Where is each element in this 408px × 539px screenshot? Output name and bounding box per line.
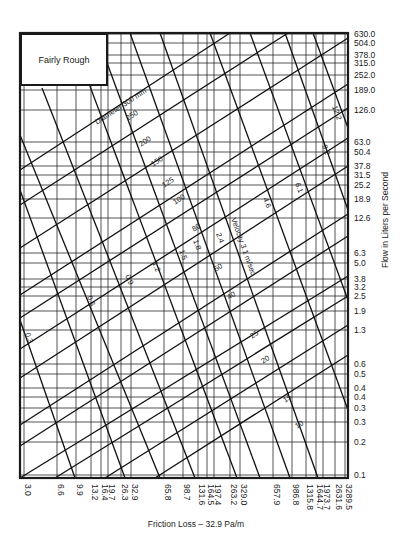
diameter-line (20, 276, 348, 478)
x-tick-label: 1315.8 (305, 484, 315, 510)
x-tick-label: 2631.6 (334, 484, 344, 510)
x-tick-label: 26.3 (120, 484, 130, 501)
x-tick-label: 13.2 (90, 484, 100, 501)
velocity-line (20, 190, 125, 478)
y-tick-label: 12.6 (354, 214, 371, 223)
x-tick-label: 329.0 (239, 484, 249, 505)
x-axis-title-text: Friction Loss – 32.9 Pa/m (148, 519, 244, 529)
velocity-line (20, 320, 75, 478)
y-tick-label: 31.5 (354, 171, 371, 180)
y-tick-label: 1.9 (354, 307, 366, 316)
y-tick-label: 25.2 (354, 181, 371, 190)
y-tick-label: 0.5 (354, 370, 366, 379)
x-tick-label: 197.4 (213, 484, 223, 505)
x-tick-label: 19.7 (107, 484, 117, 501)
x-axis-title: Friction Loss – 32.9 Pa/m (0, 519, 408, 529)
y-tick-label: 50.4 (354, 148, 371, 157)
diameter-line (20, 108, 348, 318)
y-tick-label: 0.1 (354, 471, 366, 480)
velocity-line (313, 33, 348, 128)
y-tick-label: 6.3 (354, 249, 366, 258)
diameter-line (155, 355, 348, 478)
x-tick-label: 3289.5 (344, 484, 354, 510)
y-tick-label: 315.0 (354, 59, 375, 68)
x-tick-label: 32.9 (130, 484, 140, 501)
y-axis-title: Flow in Liters per Second (380, 172, 390, 268)
diameter-line (20, 138, 348, 349)
y-tick-label: 252.0 (354, 71, 375, 80)
y-tick-label: 0.3 (354, 418, 366, 427)
x-tick-label: 986.8 (291, 484, 301, 505)
diameter-line (20, 214, 348, 425)
y-tick-label: 0.3 (354, 404, 366, 413)
y-tick-label: 63.0 (354, 138, 371, 147)
velocity-line (42, 88, 195, 478)
x-tick-label: 1973.7 (322, 484, 332, 510)
x-tick-label: 9.9 (75, 484, 85, 496)
y-tick-label: 5.0 (354, 259, 366, 268)
x-tick-label: 3.0 (23, 484, 33, 496)
y-tick-label: 0.4 (354, 393, 366, 402)
x-tick-label: 263.2 (229, 484, 239, 505)
diameter-line (20, 236, 348, 446)
legend-box: Fairly Rough (20, 33, 108, 86)
diameter-line (105, 325, 348, 478)
x-tick-label: 6.6 (56, 484, 66, 496)
y-tick-label: 189.0 (354, 86, 375, 95)
diameter-line (55, 296, 348, 478)
y-tick-label: 126.0 (354, 106, 375, 115)
y-tick-label: 0.2 (354, 438, 366, 447)
y-tick-label: 2.5 (354, 292, 366, 301)
y-tick-label: 0.6 (354, 360, 366, 369)
legend-box-label: Fairly Rough (38, 55, 89, 65)
x-tick-label: 657.9 (272, 484, 282, 505)
x-tick-label: 65.8 (163, 484, 173, 501)
y-tick-label: 504.0 (354, 39, 375, 48)
y-tick-label: 18.9 (354, 195, 371, 204)
y-tick-label: 1.3 (354, 326, 366, 335)
x-tick-label: 98.7 (182, 484, 192, 501)
